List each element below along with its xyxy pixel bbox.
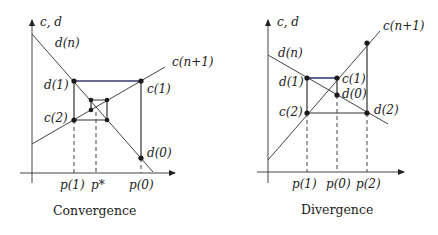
point-c1 (334, 75, 339, 80)
label-d1: d(1) (44, 78, 69, 92)
point-c2 (71, 117, 76, 122)
caption-convergence: Convergence (53, 203, 136, 218)
point-c3 (364, 40, 369, 45)
label-c1: c(1) (147, 82, 171, 96)
point-d1 (71, 78, 76, 83)
label-d2: d(2) (374, 103, 399, 117)
point-d0 (334, 92, 339, 97)
convergence-diagram: c, d d(n) c(n+1) d(1) c(1) c(2) d(0) p(1… (20, 15, 214, 218)
y-axis-label: c, d (40, 15, 62, 29)
tick-p0: p(0) (129, 178, 154, 192)
point-d1 (304, 75, 309, 80)
tick-p1: p(1) (60, 178, 85, 192)
point-inner-2 (105, 98, 110, 103)
point-inner-1 (89, 98, 94, 103)
label-c2: c(2) (44, 111, 68, 125)
label-d1: d(1) (279, 75, 304, 89)
tick-p0: p(0) (326, 177, 351, 191)
label-c1: c(1) (342, 72, 366, 86)
point-inner-4 (89, 108, 94, 113)
caption-divergence: Divergence (301, 202, 373, 217)
supply-label: c(n+1) (172, 55, 214, 69)
tick-p2: p(2) (356, 177, 381, 191)
point-d0 (138, 155, 143, 160)
point-d2 (364, 110, 369, 115)
point-inner-3 (105, 118, 110, 123)
tick-pstar: p* (91, 178, 105, 192)
label-d0: d(0) (147, 146, 172, 160)
demand-line (32, 34, 153, 172)
supply-label: c(n+1) (383, 19, 425, 33)
point-c2 (304, 110, 309, 115)
y-axis-label: c, d (277, 15, 299, 29)
label-c2: c(2) (279, 105, 303, 119)
demand-label: d(n) (278, 46, 303, 60)
cobweb-diagrams: c, d d(n) c(n+1) d(1) c(1) c(2) d(0) p(1… (0, 0, 438, 235)
demand-label: d(n) (55, 36, 80, 50)
divergence-diagram: c, d d(n) c(n+1) d(1) c(1) d(0) c(2) d(2… (257, 15, 425, 217)
label-d0: d(0) (342, 87, 367, 101)
tick-p1: p(1) (292, 177, 317, 191)
point-c1 (138, 78, 143, 83)
